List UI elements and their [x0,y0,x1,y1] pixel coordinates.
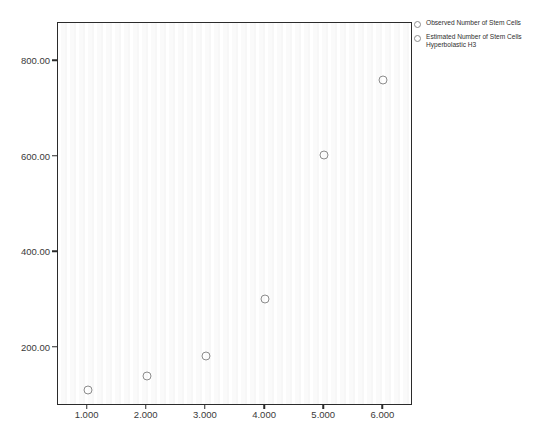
y-axis-tick-label: 200.00 [21,341,50,352]
data-point [142,372,151,381]
y-axis-tick-label: 600.00 [21,150,50,161]
open-circle-icon [414,21,421,28]
x-axis-tick-mark [145,405,147,409]
plot-area [57,22,412,405]
y-axis-tick-label: 800.00 [21,55,50,66]
x-axis-tick-label: 1.000 [75,409,99,420]
x-axis-tick-label: 6.000 [371,409,395,420]
y-axis-tick-label: 400.00 [21,246,50,257]
legend-entry[interactable]: Estimated Number of Stem Cells Hyperbola… [414,33,538,49]
x-axis-tick-mark [382,405,384,409]
x-axis-tick-label: 2.000 [134,409,158,420]
x-axis-tick-mark [263,405,265,409]
legend-entry-label: Observed Number of Stem Cells [426,19,521,27]
legend-entry[interactable]: Observed Number of Stem Cells [414,19,538,28]
legend-entry-label: Estimated Number of Stem Cells Hyperbola… [426,33,522,49]
legend: Observed Number of Stem CellsEstimated N… [414,19,538,54]
chart-canvas: 200.00400.00600.00800.00 1.0002.0003.000… [0,0,540,446]
data-point [320,150,329,159]
data-point [83,385,92,394]
y-axis-tick-mark [52,346,57,348]
data-point [201,352,210,361]
y-axis-tick-mark [52,250,57,252]
y-axis-tick-mark [52,59,57,61]
data-point [261,295,270,304]
y-axis: 200.00400.00600.00800.00 [0,0,50,446]
data-point [379,76,388,85]
y-axis-tick-mark [52,155,57,157]
x-axis-tick-label: 3.000 [193,409,217,420]
x-axis-tick-label: 4.000 [252,409,276,420]
data-layer [58,23,411,404]
x-axis-tick-mark [86,405,88,409]
open-circle-icon [414,35,421,42]
x-axis-tick-mark [323,405,325,409]
x-axis-tick-mark [204,405,206,409]
x-axis-tick-label: 5.000 [311,409,335,420]
